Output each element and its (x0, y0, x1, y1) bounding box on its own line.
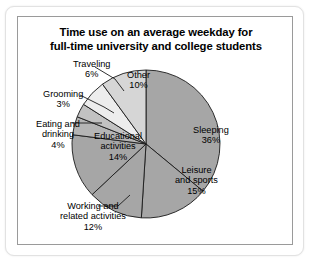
screenshot-root: Time use on an average weekday for full-… (0, 0, 310, 265)
pie-label-eating-and-drinking: Eating anddrinking4% (36, 119, 80, 150)
pie-label-eating-and-drinking-line-3: 4% (36, 140, 80, 150)
pie-label-educational-activities-line-1: Educational (94, 131, 142, 141)
pie-label-sleeping-line-2: 36% (193, 135, 229, 145)
pie-label-eating-and-drinking-line-1: Eating and (36, 119, 80, 129)
pie-label-working-and-related-activities-line-1: Working and (60, 201, 126, 211)
pie-label-leisure-and-sports-line-3: 15% (175, 186, 218, 196)
pie-label-leisure-and-sports: Leisureand sports15% (175, 165, 218, 196)
pie-label-working-and-related-activities: Working andrelated activities12% (60, 201, 126, 232)
pie-label-other: Other10% (127, 70, 150, 91)
pie-label-educational-activities: Educationalactivities14% (94, 131, 142, 162)
pie-label-traveling-line-2: 6% (73, 69, 110, 79)
pie-label-traveling: Traveling6% (73, 59, 110, 80)
pie-label-grooming: Grooming3% (43, 89, 83, 110)
pie-label-grooming-line-1: Grooming (43, 89, 83, 99)
pie-label-traveling-line-1: Traveling (73, 59, 110, 69)
pie-label-sleeping-line-1: Sleeping (193, 125, 229, 135)
pie-label-working-and-related-activities-line-3: 12% (60, 222, 126, 232)
pie-label-sleeping: Sleeping36% (193, 125, 229, 146)
pie-label-educational-activities-line-2: activities (94, 141, 142, 151)
pie-label-educational-activities-line-3: 14% (94, 152, 142, 162)
pie-label-other-line-1: Other (127, 70, 150, 80)
pie-label-eating-and-drinking-line-2: drinking (36, 129, 80, 139)
pie-label-other-line-2: 10% (127, 80, 150, 90)
pie-label-working-and-related-activities-line-2: related activities (60, 211, 126, 221)
pie-label-leisure-and-sports-line-1: Leisure (175, 165, 218, 175)
pie-chart-plot-area: Sleeping36%Leisureand sports15%Working a… (18, 17, 294, 246)
chart-frame: Time use on an average weekday for full-… (17, 16, 293, 245)
pie-label-leisure-and-sports-line-2: and sports (175, 175, 218, 185)
pie-label-grooming-line-2: 3% (43, 99, 83, 109)
